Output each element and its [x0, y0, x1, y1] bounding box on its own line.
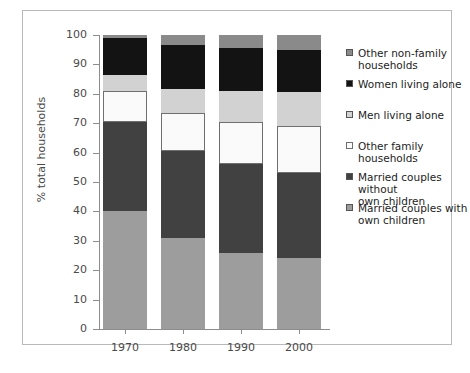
bar-segment[interactable]	[219, 122, 263, 165]
y-tick-mark	[93, 329, 99, 330]
x-tick-mark	[299, 329, 300, 334]
bar-segment[interactable]	[103, 35, 147, 38]
legend-item[interactable]: Women living alone	[346, 78, 461, 90]
y-tick-label: 70	[47, 118, 87, 128]
x-tick-mark	[183, 329, 184, 334]
y-tick-label: 60	[47, 148, 87, 158]
legend-item[interactable]: Other non-family households	[346, 47, 447, 71]
bar-segment[interactable]	[161, 151, 205, 238]
x-tick-mark	[241, 329, 242, 334]
legend-item[interactable]: Men living alone	[346, 109, 444, 121]
bar-segment[interactable]	[219, 253, 263, 329]
legend-label: Men living alone	[358, 109, 444, 121]
legend-label: Married couples with own children	[358, 202, 467, 226]
legend-swatch-icon	[346, 49, 353, 56]
bar-segment[interactable]	[161, 238, 205, 329]
bar-segment[interactable]	[103, 91, 147, 122]
y-tick-label: 0	[47, 324, 87, 334]
y-tick-label: 90	[47, 59, 87, 69]
bar-segment[interactable]	[161, 113, 205, 151]
y-tick-label: 50	[47, 177, 87, 187]
figure: % total households 010203040506070809010…	[0, 0, 470, 373]
bar-segment[interactable]	[277, 126, 321, 173]
legend-label: Other family households	[358, 140, 470, 164]
legend-swatch-icon	[346, 111, 353, 118]
bar-segment[interactable]	[277, 173, 321, 258]
y-tick-label: 30	[47, 236, 87, 246]
bar-segment[interactable]	[103, 122, 147, 212]
x-tick-label-1980: 1980	[153, 341, 213, 354]
bar-segment[interactable]	[103, 75, 147, 91]
figure-caption	[22, 357, 452, 373]
legend-swatch-icon	[346, 173, 353, 180]
y-tick-label: 10	[47, 295, 87, 305]
bar-segment[interactable]	[219, 35, 263, 48]
bar-segment[interactable]	[219, 164, 263, 252]
y-tick-label: 40	[47, 206, 87, 216]
bar-segment[interactable]	[161, 35, 205, 45]
bar-1990[interactable]	[219, 35, 263, 329]
bar-segment[interactable]	[277, 35, 321, 50]
bar-segment[interactable]	[103, 211, 147, 329]
legend-label: Women living alone	[358, 78, 461, 90]
y-tick-label: 100	[47, 30, 87, 40]
legend-item[interactable]: Other family households	[346, 140, 470, 164]
x-tick-label-2000: 2000	[269, 341, 329, 354]
bar-segment[interactable]	[103, 38, 147, 75]
bar-segment[interactable]	[219, 48, 263, 91]
bar-2000[interactable]	[277, 35, 321, 329]
x-tick-label-1990: 1990	[211, 341, 271, 354]
bar-1980[interactable]	[161, 35, 205, 329]
bar-segment[interactable]	[161, 45, 205, 89]
legend-swatch-icon	[346, 80, 353, 87]
x-axis-line	[99, 329, 330, 330]
y-tick-label: 80	[47, 89, 87, 99]
x-tick-label-1970: 1970	[95, 341, 155, 354]
legend-swatch-icon	[346, 142, 353, 149]
chart-frame: % total households 010203040506070809010…	[22, 10, 452, 345]
plot-area	[99, 35, 329, 329]
legend-swatch-icon	[346, 204, 353, 211]
bar-1970[interactable]	[103, 35, 147, 329]
legend-item[interactable]: Married couples with own children	[346, 202, 467, 226]
bar-segment[interactable]	[219, 91, 263, 122]
x-tick-mark	[125, 329, 126, 334]
bar-segment[interactable]	[277, 258, 321, 329]
y-axis-title: % total households	[35, 70, 48, 230]
legend-label: Other non-family households	[358, 47, 447, 71]
bar-segment[interactable]	[277, 92, 321, 126]
bar-segment[interactable]	[161, 89, 205, 113]
y-tick-label: 20	[47, 265, 87, 275]
bar-segment[interactable]	[277, 50, 321, 93]
